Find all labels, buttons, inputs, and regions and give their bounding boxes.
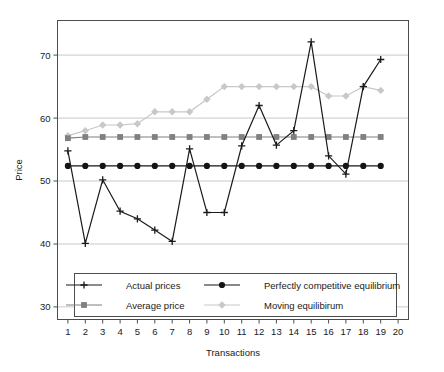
legend-label-actual-prices: Actual prices <box>126 280 181 291</box>
x-tick-label-13: 13 <box>271 326 282 337</box>
marker-average-price-5 <box>135 134 141 140</box>
marker-perfectly-competitive-equilibrium-2 <box>82 163 88 169</box>
x-tick-label-1: 1 <box>65 326 70 337</box>
marker-average-price-15 <box>308 134 314 140</box>
marker-perfectly-competitive-equilibrium-11 <box>239 163 245 169</box>
x-tick-label-2: 2 <box>83 326 88 337</box>
x-tick-label-4: 4 <box>117 326 122 337</box>
marker-perfectly-competitive-equilibrium-18 <box>360 163 366 169</box>
legend-label-perfectly-competitive-equilibrium: Perfectly competitive equilibrium <box>264 280 400 291</box>
x-tick-label-5: 5 <box>135 326 140 337</box>
x-tick-label-12: 12 <box>254 326 265 337</box>
marker-perfectly-competitive-equilibrium-6 <box>152 163 158 169</box>
x-tick-label-7: 7 <box>170 326 175 337</box>
marker-average-price-8 <box>187 134 193 140</box>
legend-marker-perfectly-competitive-equilibrium <box>219 282 225 288</box>
marker-average-price-4 <box>117 134 123 140</box>
marker-perfectly-competitive-equilibrium-15 <box>308 163 314 169</box>
y-tick-label-40: 40 <box>40 238 51 249</box>
legend-label-moving-equilibirum: Moving equilibirum <box>264 300 343 311</box>
marker-average-price-1 <box>65 135 71 141</box>
marker-perfectly-competitive-equilibrium-13 <box>273 163 279 169</box>
marker-average-price-11 <box>239 134 245 140</box>
legend-marker-average-price <box>81 302 87 308</box>
marker-perfectly-competitive-equilibrium-12 <box>256 163 262 169</box>
x-tick-label-19: 19 <box>375 326 386 337</box>
marker-average-price-17 <box>343 134 349 140</box>
legend: Actual pricesPerfectly competitive equil… <box>66 274 400 317</box>
marker-perfectly-competitive-equilibrium-3 <box>100 163 106 169</box>
marker-perfectly-competitive-equilibrium-16 <box>326 163 332 169</box>
marker-perfectly-competitive-equilibrium-8 <box>187 163 193 169</box>
x-tick-label-17: 17 <box>341 326 352 337</box>
y-axis-title: Price <box>13 159 24 181</box>
x-tick-label-14: 14 <box>289 326 300 337</box>
x-tick-label-16: 16 <box>323 326 334 337</box>
marker-average-price-2 <box>82 134 88 140</box>
marker-average-price-6 <box>152 134 158 140</box>
price-transactions-line-chart: 3040506070 12345678910111213141516171819… <box>0 0 444 372</box>
marker-perfectly-competitive-equilibrium-4 <box>117 163 123 169</box>
chart-container: 3040506070 12345678910111213141516171819… <box>0 0 444 372</box>
marker-average-price-3 <box>100 134 106 140</box>
marker-average-price-19 <box>378 134 384 140</box>
x-tick-label-8: 8 <box>187 326 192 337</box>
marker-perfectly-competitive-equilibrium-14 <box>291 163 297 169</box>
marker-average-price-14 <box>291 134 297 140</box>
marker-perfectly-competitive-equilibrium-9 <box>204 163 210 169</box>
y-tick-label-50: 50 <box>40 175 51 186</box>
y-tick-label-70: 70 <box>40 50 51 61</box>
marker-perfectly-competitive-equilibrium-10 <box>221 163 227 169</box>
marker-average-price-12 <box>256 134 262 140</box>
x-tick-label-20: 20 <box>393 326 404 337</box>
marker-average-price-10 <box>221 134 227 140</box>
x-tick-label-3: 3 <box>100 326 105 337</box>
marker-average-price-18 <box>360 134 366 140</box>
marker-perfectly-competitive-equilibrium-7 <box>169 163 175 169</box>
marker-perfectly-competitive-equilibrium-19 <box>378 163 384 169</box>
x-tick-label-6: 6 <box>152 326 157 337</box>
x-tick-label-10: 10 <box>219 326 230 337</box>
marker-average-price-7 <box>169 134 175 140</box>
x-tick-label-15: 15 <box>306 326 317 337</box>
x-tick-label-11: 11 <box>237 326 247 337</box>
x-axis-title: Transactions <box>206 347 260 358</box>
marker-perfectly-competitive-equilibrium-5 <box>134 163 140 169</box>
x-tick-label-18: 18 <box>358 326 369 337</box>
x-tick-label-9: 9 <box>204 326 209 337</box>
y-tick-label-60: 60 <box>40 113 51 124</box>
y-tick-label-30: 30 <box>40 301 51 312</box>
legend-label-average-price: Average price <box>126 300 184 311</box>
marker-average-price-9 <box>204 134 210 140</box>
